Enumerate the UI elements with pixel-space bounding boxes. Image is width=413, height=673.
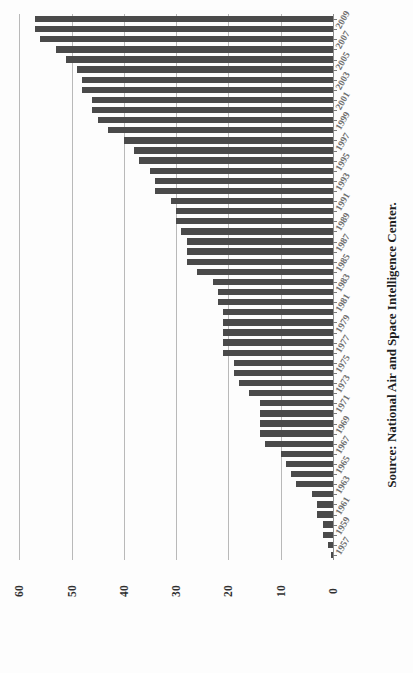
bar-1967 [281, 451, 333, 457]
bar-row [0, 228, 345, 234]
bar-1987 [187, 248, 333, 254]
bar-series [0, 14, 345, 560]
bar-row [0, 97, 345, 103]
bar-2002 [92, 97, 333, 103]
bar-row [0, 370, 345, 376]
chart-page: 6050403020100 20092007200520032001199919… [0, 0, 413, 673]
bar-1968 [265, 441, 333, 447]
bar-1970 [260, 420, 333, 426]
bar-1984 [213, 279, 333, 285]
category-tick-1989 [333, 231, 337, 232]
bar-row [0, 77, 345, 83]
bar-1995 [150, 168, 333, 174]
bar-row [0, 491, 345, 497]
category-tick-1961 [333, 515, 337, 516]
bar-1965 [291, 471, 333, 477]
category-tick-1999 [333, 130, 337, 131]
bar-row [0, 380, 345, 386]
bar-row [0, 430, 345, 436]
bar-1991 [176, 208, 333, 214]
bar-row [0, 532, 345, 538]
bar-1979 [223, 329, 333, 335]
bar-row [0, 168, 345, 174]
bar-chart: 6050403020100 20092007200520032001199919… [0, 0, 345, 673]
bar-row [0, 410, 345, 416]
category-tick-2009 [333, 29, 337, 30]
bar-row [0, 56, 345, 62]
plot-area [0, 14, 345, 560]
category-tick-1997 [333, 151, 337, 152]
bar-1962 [317, 501, 333, 507]
bar-2004 [82, 77, 333, 83]
bar-row [0, 471, 345, 477]
category-tick-2001 [333, 110, 337, 111]
bar-row [0, 147, 345, 153]
bar-2003 [82, 87, 333, 93]
bar-1990 [176, 218, 333, 224]
bar-row [0, 259, 345, 265]
category-tick-1969 [333, 434, 337, 435]
category-tick-1977 [333, 353, 337, 354]
bar-2009 [35, 26, 333, 32]
bar-row [0, 188, 345, 194]
bar-row [0, 198, 345, 204]
bar-1983 [218, 289, 333, 295]
bar-1985 [197, 269, 333, 275]
bar-1977 [223, 350, 333, 356]
bar-row [0, 137, 345, 143]
category-tick-1993 [333, 191, 337, 192]
category-tick-1967 [333, 454, 337, 455]
bar-row [0, 157, 345, 163]
bar-row [0, 46, 345, 52]
bar-1993 [155, 188, 333, 194]
bar-row [0, 339, 345, 345]
category-tick-1995 [333, 171, 337, 172]
bar-row [0, 87, 345, 93]
bar-1988 [187, 238, 333, 244]
bar-row [0, 511, 345, 517]
source-note-text: Source: National Air and Space Intellige… [384, 135, 400, 555]
bar-row [0, 36, 345, 42]
bar-row [0, 319, 345, 325]
category-tick-1971 [333, 413, 337, 414]
bar-1971 [260, 410, 333, 416]
bar-row [0, 329, 345, 335]
bar-row [0, 127, 345, 133]
category-tick-1983 [333, 292, 337, 293]
value-tick-60: 60 [13, 571, 25, 611]
bar-row [0, 481, 345, 487]
bar-1996 [139, 157, 333, 163]
value-tick-50: 50 [66, 571, 78, 611]
bar-1960 [323, 521, 333, 527]
category-tick-1981 [333, 312, 337, 313]
category-tick-1985 [333, 272, 337, 273]
bar-1972 [260, 400, 333, 406]
bar-row [0, 269, 345, 275]
source-note: Source: National Air and Space Intellige… [375, 0, 409, 673]
bar-row [0, 360, 345, 366]
bar-1986 [187, 259, 333, 265]
bar-1994 [155, 178, 333, 184]
bar-1959 [323, 532, 333, 538]
bar-2006 [66, 56, 333, 62]
bar-2000 [98, 117, 333, 123]
bar-1974 [239, 380, 333, 386]
bar-2008 [40, 36, 333, 42]
bar-row [0, 441, 345, 447]
bar-row [0, 178, 345, 184]
bar-1976 [234, 360, 333, 366]
bar-row [0, 521, 345, 527]
bar-1982 [218, 299, 333, 305]
category-tick-1965 [333, 474, 337, 475]
bar-row [0, 461, 345, 467]
bar-1999 [108, 127, 333, 133]
bar-row [0, 248, 345, 254]
bar-2010 [35, 16, 333, 22]
bar-row [0, 390, 345, 396]
bar-row [0, 299, 345, 305]
bar-1992 [171, 198, 333, 204]
bar-1973 [249, 390, 333, 396]
value-tick-10: 10 [275, 571, 287, 611]
bar-row [0, 238, 345, 244]
bar-1989 [181, 228, 333, 234]
